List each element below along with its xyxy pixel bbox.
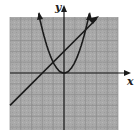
parabola-left-arrow-icon: [37, 12, 43, 20]
x-axis-label: x: [126, 75, 134, 88]
graph: x y: [0, 0, 140, 138]
y-axis-label: y: [54, 1, 63, 14]
y-axis-arrow-icon: [61, 5, 67, 12]
parabola-arrow-icon: [86, 12, 92, 20]
